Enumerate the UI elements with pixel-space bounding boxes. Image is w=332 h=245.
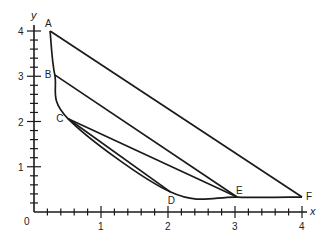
x-tick-label: 3 <box>232 221 238 232</box>
chart: 12341234 ABCDEF x y 0 <box>0 0 332 245</box>
x-tick-label: 4 <box>299 221 305 232</box>
point-label-d: D <box>168 195 175 206</box>
x-tick-label: 1 <box>98 221 104 232</box>
x-tick-label: 2 <box>165 221 171 232</box>
segment-af <box>50 31 302 197</box>
point-label-b: B <box>45 69 52 80</box>
y-tick-label: 3 <box>18 71 24 82</box>
origin-label: 0 <box>24 216 30 227</box>
tick-labels: 12341234 <box>18 26 305 232</box>
axes <box>34 25 307 212</box>
point-label-e: E <box>236 185 243 196</box>
segment-cd <box>68 119 171 192</box>
x-axis-label: x <box>309 205 316 217</box>
y-tick-label: 2 <box>18 117 24 128</box>
segments <box>50 31 302 197</box>
y-tick-label: 4 <box>18 26 24 37</box>
segment-ce <box>68 119 237 197</box>
y-tick-label: 1 <box>18 162 24 173</box>
point-label-f: F <box>306 191 312 202</box>
point-label-c: C <box>56 113 63 124</box>
point-label-a: A <box>45 18 52 29</box>
y-axis-label: y <box>30 9 38 21</box>
